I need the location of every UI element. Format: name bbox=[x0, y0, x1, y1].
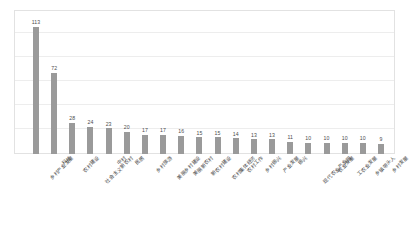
bar-item: 16 bbox=[172, 10, 190, 154]
bar-value-label: 13 bbox=[269, 133, 275, 138]
bar-item: 10 bbox=[354, 10, 372, 154]
bar-value-label: 11 bbox=[287, 135, 293, 140]
category-label: 产业发展 bbox=[282, 155, 300, 173]
bar-rect bbox=[160, 135, 166, 154]
bar-rect bbox=[324, 143, 330, 154]
bar-rect bbox=[69, 123, 75, 155]
bar-value-label: 23 bbox=[106, 122, 112, 127]
bar-item: 24 bbox=[81, 10, 99, 154]
bar-value-label: 20 bbox=[124, 125, 130, 130]
bar-item: 11 bbox=[281, 10, 299, 154]
bar-value-label: 10 bbox=[342, 136, 348, 141]
bar-item: 23 bbox=[100, 10, 118, 154]
bar-item: 14 bbox=[227, 10, 245, 154]
category-labels-layer: 乡村产业发展科技农村建设社会主义新农村中村民居乡村旅游美丽乡村建设美丽新农村新农… bbox=[14, 155, 395, 232]
bar-rect bbox=[251, 139, 257, 154]
bar-value-label: 113 bbox=[32, 20, 41, 25]
bar-value-label: 10 bbox=[305, 136, 311, 141]
bar-rect bbox=[378, 144, 384, 154]
bar-item: 13 bbox=[245, 10, 263, 154]
bar-rect bbox=[33, 27, 39, 154]
bar-rect bbox=[178, 136, 184, 154]
bar-rect bbox=[51, 73, 57, 154]
bar-value-label: 72 bbox=[51, 66, 57, 71]
bar-value-label: 24 bbox=[87, 120, 93, 125]
bar-rect bbox=[305, 143, 311, 154]
bar-item: 9 bbox=[372, 10, 390, 154]
bar-rect bbox=[269, 139, 275, 154]
category-label: 乡村振兴 bbox=[264, 155, 282, 173]
bar-item: 17 bbox=[154, 10, 172, 154]
bar-item: 113 bbox=[27, 10, 45, 154]
bar-rect bbox=[215, 137, 221, 154]
bar-rect bbox=[87, 127, 93, 154]
bar-rect bbox=[360, 143, 366, 154]
bar-rect bbox=[196, 137, 202, 154]
bar-value-label: 10 bbox=[324, 136, 330, 141]
bar-value-label: 28 bbox=[69, 116, 75, 121]
bar-item: 10 bbox=[318, 10, 336, 154]
bar-value-label: 9 bbox=[380, 137, 383, 142]
bar-rect bbox=[124, 132, 130, 155]
bar-rect bbox=[287, 142, 293, 154]
bar-rect bbox=[233, 138, 239, 154]
bar-value-label: 15 bbox=[196, 131, 202, 136]
bar-rect bbox=[342, 143, 348, 154]
bar-item: 15 bbox=[190, 10, 208, 154]
bar-value-label: 10 bbox=[360, 136, 366, 141]
bar-value-label: 15 bbox=[215, 131, 221, 136]
bar-value-label: 17 bbox=[160, 128, 166, 133]
bar-item: 20 bbox=[118, 10, 136, 154]
category-label: 乡村旅游 bbox=[155, 155, 173, 173]
bars-layer: 1137228242320171716151514131311101010109 bbox=[14, 10, 395, 154]
bar-rect bbox=[106, 128, 112, 154]
bar-item: 15 bbox=[209, 10, 227, 154]
bar-item: 10 bbox=[299, 10, 317, 154]
bar-item: 28 bbox=[63, 10, 81, 154]
bar-value-label: 16 bbox=[178, 129, 184, 134]
bar-value-label: 17 bbox=[142, 128, 148, 133]
bar-value-label: 13 bbox=[251, 133, 257, 138]
category-label: 农业发展 bbox=[337, 155, 355, 173]
bar-value-label: 14 bbox=[233, 132, 239, 137]
bar-item: 13 bbox=[263, 10, 281, 154]
category-label: 农村建设 bbox=[82, 155, 100, 173]
bar-item: 10 bbox=[336, 10, 354, 154]
category-label: 民居 bbox=[134, 155, 145, 166]
bar-rect bbox=[142, 135, 148, 154]
bar-chart: 1137228242320171716151514131311101010109… bbox=[0, 0, 409, 232]
bar-item: 17 bbox=[136, 10, 154, 154]
bar-item: 72 bbox=[45, 10, 63, 154]
